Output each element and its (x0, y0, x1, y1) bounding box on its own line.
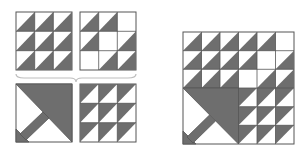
assembled-basket-block (183, 32, 294, 144)
quilt-diagram (0, 0, 305, 154)
block-basket-handle (16, 84, 72, 142)
grouping-brace (16, 74, 136, 82)
block-hst-grid-c (80, 84, 136, 142)
block-hst-grid-b (80, 12, 136, 70)
block-hst-grid-a (16, 12, 72, 70)
